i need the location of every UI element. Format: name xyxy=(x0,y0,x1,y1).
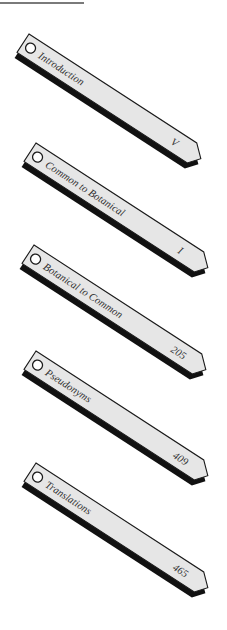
section-tabs: Introduction V Common to Botanical I Bot… xyxy=(0,0,227,630)
tab-translations[interactable]: Translations 465 xyxy=(21,463,215,602)
